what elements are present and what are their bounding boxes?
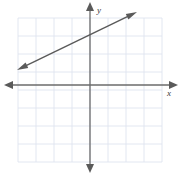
coordinate-plane-svg: y x bbox=[0, 0, 182, 175]
y-axis-label: y bbox=[96, 5, 101, 15]
axes bbox=[4, 2, 178, 173]
graph-figure: y x bbox=[0, 0, 182, 175]
x-axis-left-arrowhead bbox=[4, 81, 13, 89]
graphed-line bbox=[17, 12, 137, 70]
y-axis-down-arrowhead bbox=[86, 164, 94, 173]
line-segment bbox=[22, 14, 132, 67]
y-axis-up-arrowhead bbox=[86, 2, 94, 11]
x-axis-label: x bbox=[166, 88, 171, 98]
line-left-arrowhead bbox=[17, 63, 28, 70]
